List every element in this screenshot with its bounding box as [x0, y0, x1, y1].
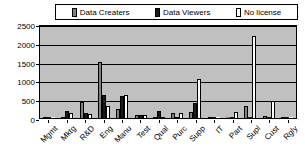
x-tick-mark	[288, 120, 289, 123]
legend-entry-no-license: No license	[236, 8, 281, 17]
bar-group	[278, 26, 296, 118]
bar-part-nolicense	[234, 112, 238, 118]
bar-eng-nolicense	[106, 106, 110, 118]
bar-group	[150, 26, 168, 118]
bar-group	[113, 26, 131, 118]
bars-layer	[40, 26, 296, 118]
x-axis: MgmtMktgR&DEngManuTestQualPurcSuppITPart…	[39, 120, 297, 154]
x-tick-mark	[251, 120, 252, 123]
x-tick-mark	[196, 120, 197, 123]
bar-it-nolicense	[216, 117, 220, 118]
x-tick-mark	[48, 120, 49, 123]
bar-purc-nolicense	[179, 113, 183, 118]
bar-group	[95, 26, 113, 118]
y-tick-label: 2500	[17, 22, 35, 31]
bar-group	[77, 26, 95, 118]
bar-group	[40, 26, 58, 118]
bar-group	[168, 26, 186, 118]
bar-group	[223, 26, 241, 118]
bar-group	[259, 26, 277, 118]
x-tick-mark	[67, 120, 68, 123]
x-tick-label-rgly: Rgly	[281, 124, 299, 142]
bar-group	[186, 26, 204, 118]
legend-label-data-creaters: Data Creaters	[80, 8, 130, 17]
bar-group	[241, 26, 259, 118]
y-tick-label: 500	[22, 97, 35, 106]
bar-group	[205, 26, 223, 118]
y-tick-label: 0	[31, 116, 35, 125]
x-tick-mark	[159, 120, 160, 123]
x-tick-label-cust: Cust	[263, 124, 281, 142]
y-tick-label: 2000	[17, 40, 35, 49]
x-tick-label-supl: Supl	[245, 124, 263, 142]
bar-manu-nolicense	[124, 95, 128, 118]
swatch-data-viewers-icon	[155, 8, 160, 17]
legend-entry-data-creaters: Data Creaters	[72, 8, 130, 17]
bar-rd-nolicense	[88, 114, 92, 119]
bar-supp-nolicense	[197, 79, 201, 118]
x-tick-label-part: Part	[227, 124, 244, 141]
x-tick-mark	[85, 120, 86, 123]
swatch-no-license-icon	[236, 8, 241, 17]
bar-rgly-nolicense	[289, 117, 293, 118]
bar-cust-nolicense	[271, 101, 275, 118]
bar-group	[58, 26, 76, 118]
x-tick-mark	[104, 120, 105, 123]
y-axis: 05001000150020002500	[0, 25, 39, 121]
x-tick-label-mgmt: Mgmt	[39, 124, 60, 145]
x-tick-mark	[269, 120, 270, 123]
x-tick-label-supp: Supp	[187, 124, 207, 144]
x-tick-label-test: Test	[135, 124, 152, 141]
x-tick-mark	[214, 120, 215, 123]
x-tick-label-it: IT	[214, 124, 225, 135]
x-tick-mark	[233, 120, 234, 123]
swatch-data-creaters-icon	[72, 8, 77, 17]
bar-supl-nolicense	[252, 36, 256, 118]
legend-label-data-viewers: Data Viewers	[163, 8, 210, 17]
chart-legend: Data Creaters Data Viewers No license	[55, 4, 298, 20]
x-tick-label-manu: Manu	[113, 124, 134, 145]
y-tick-label: 1500	[17, 59, 35, 68]
x-tick-mark	[140, 120, 141, 123]
plot-area	[39, 25, 297, 119]
bar-mgmt-nolicense	[51, 117, 55, 118]
legend-label-no-license: No license	[244, 8, 281, 17]
legend-entry-data-viewers: Data Viewers	[155, 8, 210, 17]
x-tick-label-purc: Purc	[171, 124, 189, 142]
y-tick-label: 1000	[17, 78, 35, 87]
bar-qual-nolicense	[161, 117, 165, 119]
bar-mktg-nolicense	[69, 113, 73, 118]
bar-test-nolicense	[143, 115, 147, 118]
bar-chart: Data Creaters Data Viewers No license 05…	[0, 0, 305, 154]
x-tick-mark	[177, 120, 178, 123]
x-tick-label-mktg: Mktg	[59, 124, 78, 143]
bar-group	[131, 26, 149, 118]
x-tick-label-rd: R&D	[78, 124, 96, 142]
x-tick-label-qual: Qual	[152, 124, 170, 142]
x-tick-mark	[122, 120, 123, 123]
